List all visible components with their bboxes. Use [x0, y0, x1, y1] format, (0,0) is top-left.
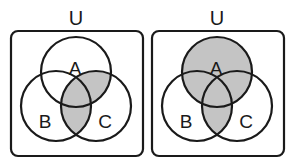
- set-label-a: A: [69, 58, 82, 79]
- set-label-c: C: [239, 111, 253, 132]
- venn-diagram-right: U A B C: [152, 7, 284, 156]
- venn-diagram-left: U A B C: [11, 7, 143, 156]
- universe-label: U: [210, 7, 224, 29]
- set-label-b: B: [180, 111, 193, 132]
- set-label-b: B: [39, 111, 52, 132]
- set-label-c: C: [98, 111, 112, 132]
- set-label-a: A: [210, 58, 223, 79]
- venn-diagrams-canvas: U A B C U A B C: [0, 0, 295, 164]
- universe-label: U: [69, 7, 83, 29]
